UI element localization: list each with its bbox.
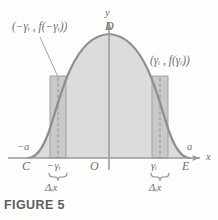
figure-5-container: (−γᵢ , f(−γᵢ)) (γᵢ , f(γᵢ)) y x D O C E … (0, 0, 218, 220)
right-endpoint-label-e: E (182, 160, 189, 172)
negative-a-tick-label: −a (17, 142, 29, 153)
left-endpoint-label-c: C (22, 160, 30, 172)
left-delta-brace (49, 173, 67, 181)
figure-caption: FIGURE 5 (4, 198, 65, 212)
right-delta-x-label: Δᵢx (149, 183, 161, 194)
figure-graphic (0, 0, 218, 220)
left-label-leader-line (40, 37, 58, 77)
peak-point-label-d: D (105, 20, 114, 32)
left-point-coordinate-label: (−γᵢ , f(−γᵢ)) (12, 21, 67, 33)
right-point-coordinate-label: (γᵢ , f(γᵢ)) (150, 55, 190, 67)
positive-gamma-tick-label: γᵢ (151, 160, 157, 171)
right-delta-brace (151, 173, 169, 181)
negative-gamma-tick-label: −γᵢ (47, 160, 61, 171)
y-axis-label: y (105, 8, 110, 19)
origin-label-o: O (90, 160, 99, 172)
positive-a-tick-label: a (187, 142, 192, 153)
x-axis-label: x (206, 152, 211, 163)
left-delta-x-label: Δᵢx (45, 183, 57, 194)
